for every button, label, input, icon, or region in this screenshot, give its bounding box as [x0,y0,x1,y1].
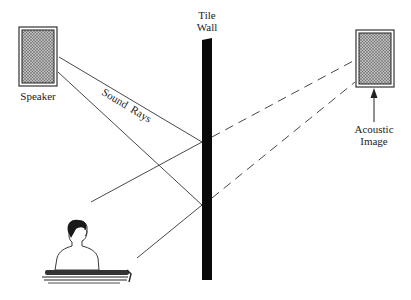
acoustic-image-label-line1: Acoustic [348,123,400,135]
tile-wall-label-line2: Wall [187,21,227,33]
acoustic-image-icon [356,30,394,87]
tile-wall-label-line1: Tile [187,9,227,21]
tile-wall [202,38,212,280]
acoustic-image-label-line2: Image [348,135,400,147]
arrow-up-icon [371,88,378,122]
speaker-icon [19,27,57,86]
diagram-canvas [0,0,411,300]
acoustic-image-label: Acoustic Image [348,123,400,147]
listener-figure [55,220,99,270]
speaker-label: Speaker [14,90,62,102]
tile-wall-label: Tile Wall [187,9,227,33]
bench [42,270,131,283]
virtual-rays [212,60,355,198]
